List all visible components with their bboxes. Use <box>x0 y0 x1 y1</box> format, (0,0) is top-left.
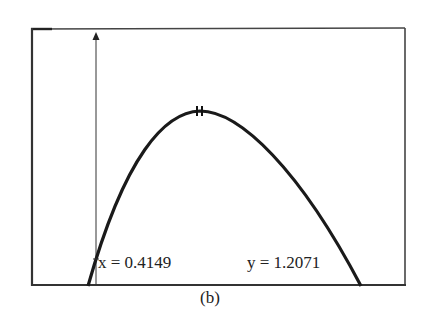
y-value-label: y = 1.2071 <box>247 253 320 273</box>
plot-frame <box>31 28 406 286</box>
diagram-canvas <box>0 0 431 327</box>
x-value-label: x = 0.4149 <box>98 253 171 273</box>
figure-caption: (b) <box>200 288 220 308</box>
